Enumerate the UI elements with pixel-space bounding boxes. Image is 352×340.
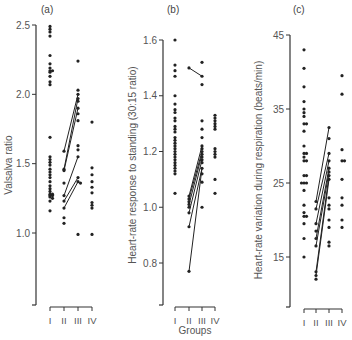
y-tick-label: 25 — [273, 178, 285, 189]
data-point — [200, 75, 203, 78]
data-point — [173, 69, 176, 72]
data-point — [327, 241, 330, 244]
data-point — [327, 137, 330, 140]
data-point — [327, 226, 330, 229]
data-point — [302, 67, 305, 70]
data-point — [200, 167, 203, 170]
data-point — [200, 172, 203, 175]
data-point — [173, 63, 176, 66]
data-point — [305, 159, 308, 162]
data-point — [213, 150, 216, 153]
data-point — [327, 159, 330, 162]
y-tick-label: 1.2 — [143, 146, 157, 157]
data-point — [213, 116, 216, 119]
y-tick-label: 15 — [273, 252, 285, 263]
data-point — [302, 204, 305, 207]
data-point — [90, 206, 93, 209]
data-point — [48, 176, 51, 179]
data-point — [76, 93, 79, 96]
data-point — [213, 128, 216, 131]
y-tick-label: 0.8 — [143, 258, 157, 269]
data-point — [302, 237, 305, 240]
data-point — [48, 158, 51, 161]
data-point — [173, 108, 176, 111]
data-point — [173, 158, 176, 161]
data-point — [173, 155, 176, 158]
data-point — [314, 207, 317, 210]
data-point — [200, 119, 203, 122]
data-point — [173, 128, 176, 131]
data-point — [76, 155, 79, 158]
data-point — [200, 136, 203, 139]
data-point — [48, 75, 51, 78]
data-point — [343, 159, 346, 162]
data-point — [76, 59, 79, 62]
x-axis-label: Groups — [179, 325, 212, 336]
data-point — [187, 211, 190, 214]
panel-label: (b) — [167, 4, 179, 15]
data-point — [48, 34, 51, 37]
data-point — [327, 196, 330, 199]
data-point — [90, 204, 93, 207]
data-point — [76, 233, 79, 236]
data-point — [90, 173, 93, 176]
data-point — [200, 158, 203, 161]
x-tick-label: II — [61, 315, 66, 326]
data-point — [340, 74, 343, 77]
data-point — [327, 174, 330, 177]
data-point — [305, 174, 308, 177]
data-point — [173, 119, 176, 122]
y-axis-label: Valsalva ratio — [3, 135, 14, 195]
data-point — [62, 181, 65, 184]
x-tick-label: IV — [211, 315, 221, 326]
data-point — [200, 181, 203, 184]
y-tick-label: 1.5 — [16, 158, 30, 169]
data-point — [187, 225, 190, 228]
data-point — [302, 189, 305, 192]
data-point — [302, 156, 305, 159]
paired-line — [64, 98, 78, 169]
data-point — [340, 93, 343, 96]
data-point — [76, 176, 79, 179]
x-tick-label: I — [174, 315, 177, 326]
data-point — [305, 122, 308, 125]
chart-figure: 1.01.52.02.5(a)Valsalva ratioIIIIIIIV0.8… — [0, 0, 352, 340]
data-point — [302, 144, 305, 147]
data-point — [90, 233, 93, 236]
panel-label: (a) — [41, 4, 53, 15]
data-point — [76, 100, 79, 103]
data-point — [62, 222, 65, 225]
data-point — [90, 201, 93, 204]
y-tick-label: 1.6 — [143, 35, 157, 46]
data-point — [327, 167, 330, 170]
data-point — [314, 270, 317, 273]
data-point — [173, 116, 176, 119]
data-point — [200, 153, 203, 156]
data-point — [305, 152, 308, 155]
data-point — [302, 48, 305, 51]
data-point — [173, 38, 176, 41]
data-point — [187, 206, 190, 209]
data-point — [173, 147, 176, 150]
data-point — [90, 186, 93, 189]
data-point — [48, 209, 51, 212]
data-point — [76, 97, 79, 100]
data-point — [173, 94, 176, 97]
paired-line — [64, 94, 78, 151]
data-point — [340, 218, 343, 221]
data-point — [48, 30, 51, 33]
data-point — [62, 194, 65, 197]
data-point — [302, 130, 305, 133]
x-tick-label: III — [325, 317, 333, 328]
data-point — [200, 83, 203, 86]
data-point — [90, 120, 93, 123]
data-point — [213, 178, 216, 181]
data-point — [48, 190, 51, 193]
data-point — [90, 166, 93, 169]
data-point — [62, 200, 65, 203]
data-point — [187, 270, 190, 273]
data-point — [305, 215, 308, 218]
data-point — [48, 80, 51, 83]
data-point — [302, 111, 305, 114]
y-axis-label: Heart-rate response to standing (30:15 r… — [127, 66, 138, 263]
